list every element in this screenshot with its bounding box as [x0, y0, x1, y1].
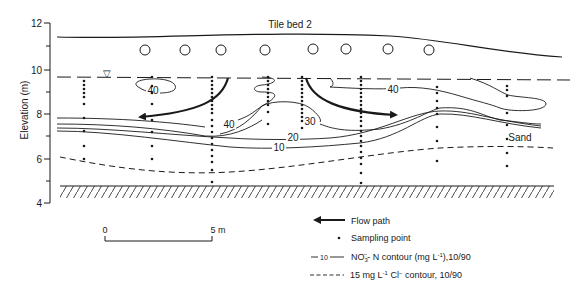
tile-drains [140, 44, 434, 55]
y-tick-6: 6 [36, 154, 42, 165]
legend-label-chloride: 15 mg L-1 Cl− contour, 10/90 [350, 270, 462, 280]
tile-drain-icon [308, 44, 318, 54]
contour-label-40-right: 40 [387, 84, 399, 95]
y-tick-10: 10 [31, 65, 43, 76]
scale-bar: 0 5 m [102, 225, 225, 241]
contour-label-10: 10 [273, 142, 285, 153]
tile-drain-icon [216, 45, 226, 55]
water-table-line [57, 77, 570, 80]
contour-30 [57, 108, 541, 137]
legend-item-chloride-contour: 15 mg L-1 Cl− contour, 10/90 [310, 270, 462, 280]
scale-bar-start: 0 [102, 225, 107, 235]
legend-label-sampling-point: Sampling point [351, 233, 411, 243]
legend-contour-sample-value: 10 [320, 254, 328, 261]
contour-40-left [57, 118, 205, 127]
sand-layer-label: Sand [508, 132, 531, 143]
contour-label-20: 20 [287, 132, 299, 143]
chloride-contour-line [60, 147, 553, 173]
sampling-dot-icon [338, 237, 341, 240]
flow-path-arrow-right [306, 78, 396, 115]
y-tick-8: 8 [36, 109, 42, 120]
y-tick-4: 4 [36, 198, 42, 209]
tile-drain-icon [341, 44, 351, 54]
cross-section-diagram: 12 10 8 6 4 Elevation (m) Tile bed 2 ▽ [0, 0, 587, 289]
water-table-icon: ▽ [103, 68, 111, 79]
legend-label-flow-path: Flow path [351, 216, 390, 226]
legend-label-nitrate: NO3−- N contour (mg L-1),10/90 [351, 251, 471, 263]
y-axis: 12 10 8 6 4 Elevation (m) [19, 18, 50, 209]
tile-drain-icon [383, 44, 393, 54]
contour-40-right [330, 78, 546, 111]
tile-bed-title: Tile bed 2 [268, 19, 312, 30]
legend-item-nitrate-contour: 10 NO3−- N contour (mg L-1),10/90 [311, 251, 471, 263]
contour-label-40-mid: 40 [223, 119, 235, 130]
y-axis-label: Elevation (m) [19, 81, 30, 140]
legend: Flow path Sampling point 10 NO3−- N cont… [310, 216, 471, 280]
legend-item-sampling-point: Sampling point [338, 233, 411, 243]
tile-drain-icon [180, 45, 190, 55]
tile-drain-icon [140, 45, 150, 55]
flow-path-arrow-left [140, 78, 228, 117]
contour-label-40-loop: 40 [147, 85, 159, 96]
impermeable-base [60, 186, 554, 198]
contour-label-30: 30 [304, 116, 316, 127]
y-tick-12: 12 [31, 18, 43, 29]
legend-item-flow-path: Flow path [315, 216, 390, 226]
tile-drain-icon [260, 45, 270, 55]
scale-bar-end: 5 m [210, 225, 225, 235]
tile-drain-icon [424, 45, 434, 55]
